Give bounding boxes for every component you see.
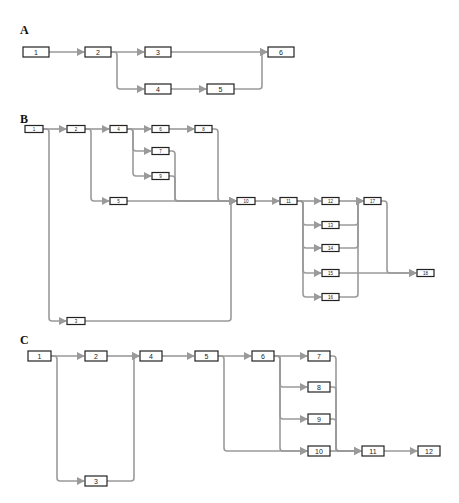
node-3: 3 (85, 476, 107, 486)
node-1: 1 (28, 351, 51, 361)
panel-b-diagram: B123456789101112131415161718 (20, 112, 434, 325)
edge-arrow (127, 129, 151, 176)
node-label: 10 (243, 199, 249, 204)
node-label: 14 (328, 246, 334, 251)
edge-arrow (169, 151, 236, 201)
edge-arrow (234, 52, 267, 89)
edge-arrow (169, 176, 236, 201)
node-label: 12 (425, 448, 433, 455)
node-14: 14 (322, 245, 339, 252)
edge-arrow (330, 419, 361, 451)
node-3: 3 (67, 318, 85, 325)
node-label: 3 (94, 478, 98, 485)
node-2: 2 (85, 351, 107, 361)
panel-a-diagram: A123456 (20, 23, 294, 94)
node-5: 5 (195, 351, 218, 361)
node-label: 5 (205, 353, 209, 360)
panel-c-diagram: C123456789101112 (20, 333, 440, 486)
node-label: 6 (261, 353, 265, 360)
node-13: 13 (322, 222, 339, 229)
edge-arrow (127, 129, 151, 151)
edge-arrow (212, 129, 236, 201)
node-6: 6 (268, 47, 294, 57)
node-5: 5 (207, 84, 234, 94)
edge-arrow (85, 129, 109, 201)
node-8: 8 (195, 126, 212, 133)
node-label: 6 (279, 49, 283, 56)
node-11: 11 (362, 446, 384, 456)
edge-arrow (111, 52, 144, 89)
node-2: 2 (67, 126, 85, 133)
node-1: 1 (25, 126, 43, 133)
node-label: 13 (328, 223, 334, 228)
panel-label: B (20, 112, 28, 126)
edge-arrow (274, 356, 307, 451)
node-label: 17 (370, 199, 376, 204)
edge-arrow (330, 356, 361, 451)
edge-arrow (107, 356, 139, 481)
panel-label: A (20, 23, 29, 37)
node-10: 10 (308, 446, 330, 456)
node-label: 12 (328, 199, 334, 204)
node-label: 18 (423, 271, 429, 276)
node-8: 8 (308, 382, 330, 392)
node-1: 1 (23, 47, 49, 57)
node-16: 16 (322, 294, 339, 301)
node-9: 9 (152, 173, 169, 180)
edge-arrow (339, 201, 363, 225)
edge-arrow (297, 201, 321, 297)
node-3: 3 (145, 47, 171, 57)
node-label: 8 (317, 384, 321, 391)
node-4: 4 (145, 84, 171, 94)
network-diagram-canvas: A123456 B123456789101112131415161718 C12… (0, 0, 459, 503)
node-label: 10 (315, 448, 323, 455)
node-6: 6 (152, 126, 169, 133)
node-label: 11 (286, 199, 291, 204)
node-12: 12 (418, 446, 440, 456)
node-2: 2 (85, 47, 111, 57)
node-7: 7 (308, 351, 330, 361)
node-11: 11 (280, 198, 297, 205)
edge-arrow (51, 356, 84, 481)
node-4: 4 (140, 351, 162, 361)
node-15: 15 (322, 270, 339, 277)
node-label: 1 (34, 49, 38, 56)
node-10: 10 (237, 198, 255, 205)
node-12: 12 (322, 198, 339, 205)
node-label: 1 (38, 353, 42, 360)
panel-label: C (20, 333, 29, 347)
edge-arrow (339, 201, 363, 297)
edge-arrow (218, 356, 307, 451)
node-label: 4 (149, 353, 153, 360)
node-label: 9 (317, 416, 321, 423)
node-label: 2 (94, 353, 98, 360)
node-label: 7 (317, 353, 321, 360)
node-label: 3 (156, 49, 160, 56)
node-label: 16 (328, 295, 334, 300)
node-label: 11 (369, 448, 376, 455)
node-9: 9 (308, 414, 330, 424)
node-17: 17 (364, 198, 381, 205)
node-7: 7 (152, 148, 169, 155)
node-5: 5 (110, 198, 127, 205)
node-6: 6 (252, 351, 274, 361)
edge-arrow (274, 356, 307, 387)
node-label: 15 (328, 271, 334, 276)
edge-arrow (381, 201, 416, 273)
edge-arrow (297, 201, 321, 273)
node-18: 18 (417, 270, 434, 277)
edge-arrow (297, 201, 321, 225)
node-label: 2 (96, 49, 100, 56)
node-label: 4 (156, 86, 160, 93)
node-4: 4 (110, 126, 127, 133)
node-label: 5 (219, 86, 223, 93)
edge-arrow (43, 129, 66, 321)
edge-arrow (85, 201, 236, 321)
